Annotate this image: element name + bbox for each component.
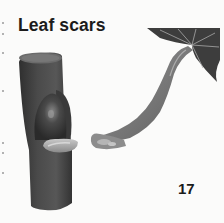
twig-leaf-scar <box>43 139 78 153</box>
petiole-drawing <box>94 46 193 145</box>
book-page: Leaf scars <box>0 0 224 223</box>
page-number: 17 <box>178 180 195 198</box>
